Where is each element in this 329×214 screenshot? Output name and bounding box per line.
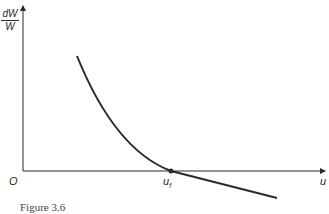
y-label-denominator: W [1, 21, 19, 32]
y-label-numerator: dW [1, 9, 19, 21]
x-axis-label: u [320, 176, 326, 187]
origin-label: O [9, 176, 18, 187]
uf-point [169, 169, 174, 174]
uf-label: uf [163, 176, 171, 189]
figure-caption: Figure 3.6 [20, 201, 65, 213]
curve [77, 56, 277, 198]
uf-sub: f [169, 182, 171, 189]
y-axis-label: dW W [1, 9, 19, 32]
